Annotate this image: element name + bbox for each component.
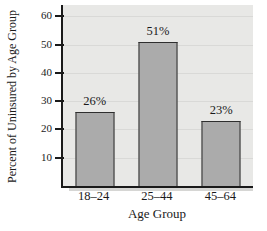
y-tick-label: 10 xyxy=(24,151,52,164)
x-tick-label: 45–64 xyxy=(189,189,252,204)
y-tick xyxy=(55,72,64,74)
y-tick-label: 20 xyxy=(24,122,52,135)
y-axis-title: Percent of Uninsured by Age Group xyxy=(5,0,20,197)
bar xyxy=(138,42,177,186)
bar-value-label: 26% xyxy=(63,94,126,109)
y-tick-label: 40 xyxy=(24,66,52,79)
bar-slot: 51% xyxy=(126,5,189,186)
y-tick xyxy=(55,128,64,130)
x-tick-label: 25–44 xyxy=(125,189,188,204)
y-tick xyxy=(55,100,64,102)
y-tick-label: 60 xyxy=(24,9,52,22)
bars-container: 26%51%23% xyxy=(63,5,253,186)
y-tick xyxy=(55,44,64,46)
bar-value-label: 23% xyxy=(190,103,253,118)
bar xyxy=(75,112,114,186)
plot-area: 26%51%23% xyxy=(61,5,253,188)
plot-shadow xyxy=(69,188,253,191)
x-tick-label: 18–24 xyxy=(62,189,125,204)
bar-slot: 23% xyxy=(190,5,253,186)
y-tick-label: 30 xyxy=(24,94,52,107)
bar-chart-figure: Percent of Uninsured by Age Group 26%51%… xyxy=(0,0,267,231)
x-axis-labels: 18–2425–4445–64 xyxy=(62,189,252,204)
y-tick-label: 50 xyxy=(24,38,52,51)
y-tick xyxy=(55,15,64,17)
bar xyxy=(202,121,241,186)
x-axis-title: Age Group xyxy=(62,206,252,222)
bar-value-label: 51% xyxy=(126,24,189,39)
y-tick xyxy=(55,157,64,159)
bar-slot: 26% xyxy=(63,5,126,186)
